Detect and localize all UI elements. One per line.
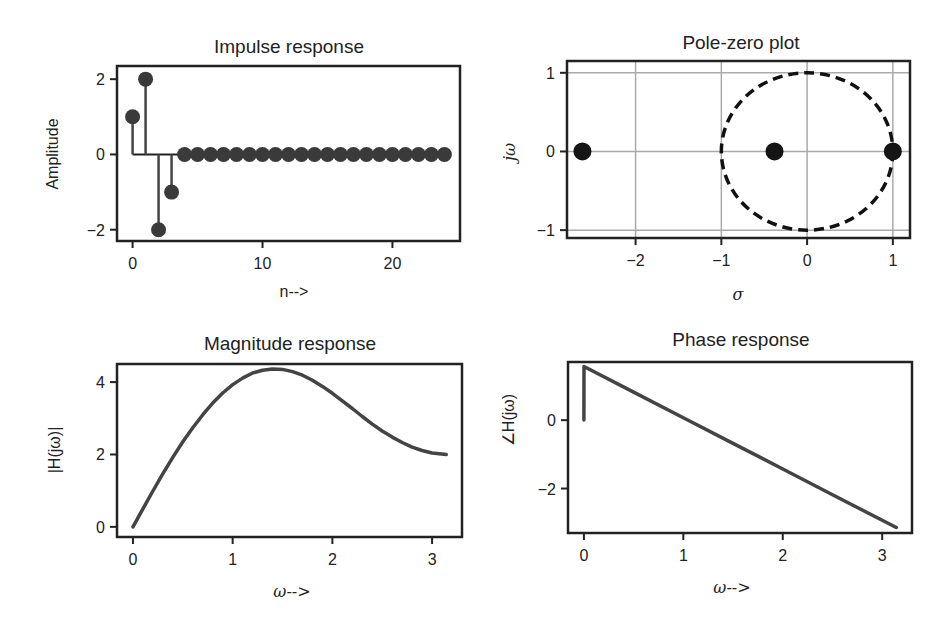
y-tick-label: 2 [96,71,105,88]
x-tick-label: 20 [384,255,402,272]
polezero-ylabel: jω [500,143,519,164]
stem-marker [411,147,426,162]
x-tick-label: 2 [328,551,337,568]
x-tick-label: 10 [254,255,272,272]
magnitude-ylabel: |H(jω)| [46,427,63,474]
phase-xlabel: ω--> [713,578,750,597]
y-tick-label: 0 [547,412,556,429]
y-tick-label: −2 [87,222,105,239]
x-tick-label: 1 [888,252,897,269]
pole-marker [766,142,784,160]
x-tick-label: 3 [428,551,437,568]
pole-marker [884,142,902,160]
stem-marker [216,147,231,162]
y-tick-label: 4 [96,374,105,391]
impulse-title: Impulse response [214,36,364,57]
phase-curve [584,367,896,528]
stem-marker [177,147,192,162]
y-tick-label: 0 [96,519,105,536]
figure: Impulse response 01020−202 n--> Amplitud… [0,0,946,630]
x-tick-label: −1 [712,252,730,269]
stem-marker [125,109,140,124]
magnitude-xlabel: ω--> [273,582,310,601]
stem-marker [255,147,270,162]
polezero-title: Pole-zero plot [682,32,800,53]
phase-response-plot: Phase response 0123−20 ω--> ∠H(jω) [500,329,912,597]
stem-marker [320,147,335,162]
x-tick-label: 1 [679,547,688,564]
x-tick-label: 2 [778,547,787,564]
stem-marker [294,147,309,162]
impulse-ylabel: Amplitude [44,118,61,189]
phase-ylabel: ∠H(jω) [500,394,517,446]
magnitude-response-plot: Magnitude response 0123024 ω--> |H(jω)| [46,333,462,601]
stem-marker [164,185,179,200]
stem-marker [268,147,283,162]
impulse-response-plot: Impulse response 01020−202 n--> Amplitud… [44,36,460,300]
stem-marker [151,222,166,237]
stem-marker [307,147,322,162]
stem-marker [424,147,439,162]
x-tick-label: 0 [803,252,812,269]
x-tick-label: 3 [878,547,887,564]
stem-marker [281,147,296,162]
y-tick-label: 1 [546,65,555,82]
axes-frame [117,364,462,537]
stem-marker [359,147,374,162]
stem-marker [242,147,257,162]
impulse-xlabel: n--> [280,283,309,300]
phase-title: Phase response [672,329,809,350]
y-tick-label: 0 [546,143,555,160]
stem-marker [385,147,400,162]
stem-marker [203,147,218,162]
x-tick-label: −2 [626,252,644,269]
y-tick-label: 2 [96,446,105,463]
stem-marker [346,147,361,162]
stem-marker [229,147,244,162]
pole-marker [573,142,591,160]
x-tick-label: 0 [128,255,137,272]
stem-marker [190,147,205,162]
x-tick-label: 0 [129,551,138,568]
y-tick-label: −2 [538,481,556,498]
magnitude-title: Magnitude response [204,333,376,354]
stem-marker [138,72,153,87]
stem-marker [398,147,413,162]
stem-marker [333,147,348,162]
magnitude-curve [133,369,446,527]
stem-marker [372,147,387,162]
polezero-xlabel: σ [733,285,745,304]
y-tick-label: 0 [96,146,105,163]
y-tick-label: −1 [537,222,555,239]
pole-zero-plot: Pole-zero plot −2−101−101 σ jω [500,32,910,304]
x-tick-label: 0 [579,547,588,564]
stem-marker [437,147,452,162]
x-tick-label: 1 [228,551,237,568]
